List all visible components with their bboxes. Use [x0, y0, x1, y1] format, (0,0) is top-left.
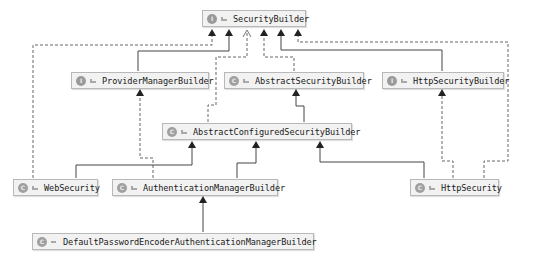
edge-authmanagerbuilder-providermanagerbuilder [140, 96, 153, 178]
arrowhead-icon [316, 141, 324, 148]
arrowhead-icon [438, 89, 446, 96]
arrowhead-icon [277, 29, 285, 36]
node-label: AbstractConfiguredSecurityBuilder [193, 127, 360, 137]
interface-icon: I [207, 14, 217, 24]
visibility-icon [243, 78, 249, 84]
node-label: DefaultPasswordEncoderAuthenticationMana… [63, 237, 317, 247]
visibility-icon [221, 16, 227, 22]
node-abstract-security-builder[interactable]: C AbstractSecurityBuilder [224, 72, 364, 89]
node-abstract-configured-security-builder[interactable]: C AbstractConfiguredSecurityBuilder [162, 123, 352, 140]
interface-icon: I [387, 76, 397, 86]
visibility-icon [429, 185, 435, 191]
class-icon: C [117, 183, 127, 193]
visibility-icon [51, 239, 57, 245]
arrowhead-icon [225, 29, 233, 36]
node-http-security-builder[interactable]: I HttpSecurityBuilder [382, 72, 504, 89]
edge-abstractsecuritybuilder-securitybuilder [264, 36, 294, 71]
visibility-icon [131, 185, 137, 191]
edge-httpsecurity-abstractconfigured [320, 148, 424, 178]
abstract-class-icon: C [167, 127, 177, 137]
node-label: HttpSecurityBuilder [413, 76, 509, 86]
final-class-icon: C [415, 183, 425, 193]
visibility-icon [90, 78, 96, 84]
final-class-icon: C [18, 183, 28, 193]
abstract-class-icon: C [229, 76, 239, 86]
node-label: HttpSecurity [441, 183, 502, 193]
node-label: WebSecurity [44, 183, 100, 193]
edge-httpsecuritybuilder-securitybuilder [281, 36, 442, 71]
edge-websecurity-abstractconfigured [76, 148, 192, 178]
arrowhead-icon [292, 89, 300, 96]
node-web-security[interactable]: C WebSecurity [13, 179, 98, 196]
arrowhead-icon [136, 89, 144, 96]
node-label: AbstractSecurityBuilder [255, 76, 372, 86]
edge-websecurity-securitybuilder [33, 36, 212, 178]
node-default-password-encoder-authentication-manager-builder[interactable]: C DefaultPasswordEncoderAuthenticationMa… [32, 233, 314, 250]
edge-httpsecurity-httpsecuritybuilder [442, 96, 453, 178]
node-authentication-manager-builder[interactable]: C AuthenticationManagerBuilder [112, 179, 278, 196]
visibility-icon [401, 78, 407, 84]
node-http-security[interactable]: C HttpSecurity [410, 179, 499, 196]
node-label: ProviderManagerBuilder [102, 76, 214, 86]
visibility-icon [32, 185, 38, 191]
node-label: SecurityBuilder [233, 14, 309, 24]
edge-httpsecurity-securitybuilder [298, 36, 508, 178]
arrowhead-icon [199, 196, 207, 203]
edge-providermanagerbuilder-securitybuilder [138, 36, 229, 71]
interface-icon: I [76, 76, 86, 86]
node-label: AuthenticationManagerBuilder [143, 183, 285, 193]
arrowhead-icon [208, 29, 216, 36]
arrowhead-icon [260, 29, 268, 36]
node-security-builder[interactable]: I SecurityBuilder [202, 10, 306, 27]
node-provider-manager-builder[interactable]: I ProviderManagerBuilder [71, 72, 209, 89]
edge-authmanagerbuilder-abstractconfigured [237, 148, 256, 178]
inner-class-icon: C [37, 237, 47, 247]
visibility-icon [181, 129, 187, 135]
edge-abstractconfigured-abstractsecurity [296, 96, 304, 122]
arrowhead-icon [188, 141, 196, 148]
arrowhead-icon [252, 141, 260, 148]
arrowhead-icon [294, 29, 302, 36]
